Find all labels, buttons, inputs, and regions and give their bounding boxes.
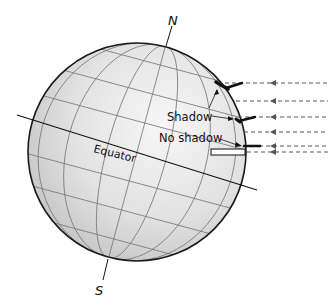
no-shadow-label: No shadow [159, 131, 222, 145]
south-label: S [95, 283, 103, 298]
shadow-label: Shadow [167, 110, 212, 124]
ray-arrowheads [270, 80, 276, 155]
globe-diagram: N S Equator Shadow No shadow [0, 0, 331, 306]
north-label: N [168, 13, 178, 28]
well-box [211, 149, 245, 155]
axis-north [166, 26, 172, 46]
axis-south [103, 259, 108, 280]
